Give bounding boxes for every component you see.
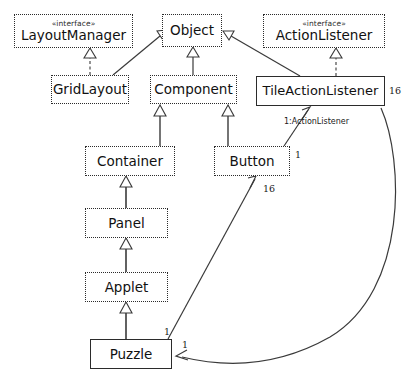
class-box-tileactionlistener[interactable]: TileActionListener: [256, 76, 385, 106]
edge-tileactionlistener-actionlistener: [330, 48, 342, 76]
edge-layer: [0, 0, 412, 383]
class-box-applet[interactable]: Applet: [85, 272, 168, 302]
multiplicity-label-16-tileactionlistener: 16: [389, 85, 401, 96]
multiplicity-label-1-puzzle-right: 1: [182, 339, 188, 350]
class-box-gridlayout[interactable]: GridLayout: [51, 75, 129, 104]
class-box-layoutmanager[interactable]: «interface» LayoutManager: [14, 14, 133, 48]
uml-class-diagram: «interface» LayoutManager Object «interf…: [0, 0, 412, 383]
edge-applet-panel: [120, 238, 132, 272]
class-name-tileactionlistener: TileActionListener: [263, 84, 379, 98]
class-box-container[interactable]: Container: [85, 146, 175, 176]
class-box-panel[interactable]: Panel: [85, 208, 168, 238]
multiplicity-label-1-button: 1: [295, 149, 301, 160]
class-box-component[interactable]: Component: [150, 75, 237, 104]
class-name-component: Component: [154, 82, 232, 96]
class-box-object[interactable]: Object: [162, 14, 222, 47]
class-name-puzzle: Puzzle: [110, 347, 153, 361]
class-name-object: Object: [170, 23, 214, 37]
edge-container-component: [154, 105, 166, 146]
class-name-button: Button: [229, 154, 274, 168]
class-name-panel: Panel: [108, 216, 144, 230]
association-role-label-actionlistener: 1:ActionListener: [284, 117, 349, 126]
class-name-container: Container: [97, 154, 163, 168]
multiplicity-label-1-puzzle-top: 1: [164, 326, 170, 337]
class-name-gridlayout: GridLayout: [53, 82, 127, 96]
class-name-layoutmanager: LayoutManager: [21, 28, 126, 42]
edge-gridlayout-layoutmanager: [84, 48, 96, 75]
edge-puzzle-applet: [120, 302, 132, 339]
class-box-puzzle[interactable]: Puzzle: [90, 339, 172, 369]
class-name-applet: Applet: [105, 280, 149, 294]
class-box-actionlistener[interactable]: «interface» ActionListener: [263, 14, 385, 48]
edge-puzzle-button: [168, 176, 256, 339]
class-name-actionlistener: ActionListener: [276, 28, 373, 42]
edge-button-component: [222, 105, 234, 146]
edge-component-object: [187, 47, 199, 75]
multiplicity-label-16-button: 16: [263, 183, 275, 194]
class-box-button[interactable]: Button: [214, 146, 290, 176]
edge-button-tileactionlistener: [284, 107, 310, 146]
edge-panel-container: [120, 176, 132, 208]
